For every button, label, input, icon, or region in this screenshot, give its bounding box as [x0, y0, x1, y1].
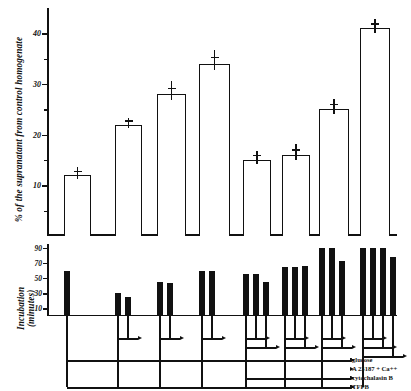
arrow-shaft: [363, 347, 393, 349]
arrow-shaft: [363, 338, 383, 340]
error-bar: [333, 99, 334, 115]
arrow-shaft: [322, 347, 352, 349]
y-tick: [42, 185, 47, 186]
timeline-bar: [243, 274, 249, 316]
arrow-stem: [245, 316, 247, 387]
error-bar: [171, 81, 172, 100]
arrow-shaft: [285, 338, 305, 340]
timeline-bar: [319, 248, 325, 316]
arrow-branch-stem: [265, 316, 267, 347]
timeline-bar: [339, 261, 345, 316]
bar: [64, 175, 91, 236]
arrow-shaft: [202, 338, 222, 340]
error-bar-cap: [292, 149, 300, 150]
arrow-stem: [159, 316, 161, 387]
error-bar: [374, 19, 375, 33]
error-bar-cap: [330, 104, 338, 105]
arrow-shaft: [322, 338, 342, 340]
legend-rail: [322, 378, 350, 380]
timeline-bar: [157, 282, 163, 316]
arrow-head: [315, 345, 319, 349]
error-bar-cap: [74, 171, 82, 172]
bar: [243, 160, 271, 236]
arrow-branch-stem: [341, 316, 343, 347]
legend-rail: [322, 360, 350, 362]
arrow-stem: [201, 316, 203, 387]
timeline-bar: [209, 271, 215, 316]
timeline-bar: [263, 282, 269, 316]
arrow-stem: [321, 316, 323, 387]
error-bar-cap: [168, 88, 176, 89]
y-tick-minor: [44, 109, 48, 110]
error-bar: [77, 167, 78, 179]
arrow-branch-stem: [392, 316, 394, 356]
arrow-branch-stem: [304, 316, 306, 347]
arrow-branch-stem: [294, 316, 296, 338]
timeline-bar: [360, 248, 366, 316]
arrow-branch-stem: [211, 316, 213, 338]
error-bar: [214, 50, 215, 71]
timeline-y-tick-label: 50: [35, 274, 43, 283]
y-tick-minor: [44, 59, 48, 60]
arrow-shaft: [285, 347, 315, 349]
y-tick-label: 10: [33, 181, 41, 190]
arrow-head: [403, 354, 407, 358]
arrow-head: [222, 336, 226, 340]
timeline-bar: [380, 248, 386, 316]
timeline-panel: 1030507090: [47, 244, 397, 316]
legend-label: TFPB: [352, 383, 369, 391]
arrow-stem: [284, 316, 286, 387]
arrow-stem: [66, 316, 68, 387]
timeline-y-tick: [43, 278, 48, 279]
timeline-bar: [64, 271, 70, 316]
timeline-y-tick-label: 70: [35, 258, 43, 267]
error-bar-cap: [371, 23, 379, 24]
legend-label: A 23187 + Ca++: [352, 365, 397, 374]
bar: [157, 94, 186, 236]
arrow-shaft: [118, 338, 138, 340]
timeline-bar: [125, 297, 131, 316]
bottom-axis-title-line1: Incubation: [16, 287, 26, 330]
arrow-head: [180, 336, 184, 340]
error-bar: [295, 144, 296, 160]
timeline-y-tick-label: 90: [35, 243, 43, 252]
arrow-head: [138, 336, 142, 340]
timeline-bar: [390, 257, 396, 316]
legend-label: cytochalasin B: [352, 374, 393, 383]
timeline-y-tick: [43, 263, 48, 264]
error-bar-cap: [253, 155, 261, 156]
arrow-branch-stem: [127, 316, 129, 338]
arrow-branch-stem: [331, 316, 333, 338]
arrow-branch-stem: [169, 316, 171, 338]
bar-chart-panel: 10203040: [47, 8, 397, 236]
y-tick-label: 40: [33, 29, 41, 38]
arrow-branch-stem: [372, 316, 374, 338]
bar: [115, 125, 142, 236]
timeline-y-tick-label: 10: [35, 304, 43, 313]
error-bar: [256, 151, 257, 165]
y-axis-line: [47, 8, 49, 236]
arrow-branch-stem: [255, 316, 257, 338]
timeline-bar: [253, 274, 259, 316]
error-bar: [128, 118, 129, 128]
bar: [199, 64, 230, 236]
y-tick: [42, 33, 47, 34]
legend-label: glucose: [352, 356, 373, 365]
timeline-y-tick: [43, 293, 48, 294]
timeline-bar: [302, 266, 308, 316]
timeline-y-axis-line: [47, 244, 49, 316]
arrow-shaft: [246, 347, 276, 349]
arrow-shaft: [246, 338, 266, 340]
bar: [319, 109, 349, 236]
bar: [360, 28, 390, 236]
y-tick: [42, 84, 47, 85]
timeline-bar: [292, 267, 298, 316]
y-tick-minor: [44, 211, 48, 212]
legend-rail: [322, 387, 350, 389]
timeline-y-tick: [43, 308, 48, 309]
bottom-panel-axis-title: Incubation (minutes): [16, 287, 36, 330]
y-tick-label: 20: [33, 130, 41, 139]
y-tick-label: 30: [33, 80, 41, 89]
bar: [282, 155, 310, 236]
